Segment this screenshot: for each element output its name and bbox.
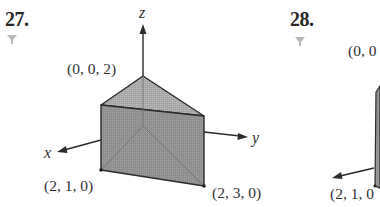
x-axis [57, 140, 101, 153]
point-label-bottom-left-28: (2, 1, 0 [330, 185, 374, 203]
vertex-dot [202, 184, 206, 188]
problem-number-28: 28. [290, 8, 314, 31]
point-label-apex: (0, 0, 2) [67, 60, 116, 78]
funnel-icon [295, 32, 305, 41]
point-label-apex-28: (0, 0 [348, 42, 376, 60]
x-axis-label: x [44, 144, 51, 162]
prism-figure-27 [0, 0, 380, 207]
z-axis-label: z [139, 4, 145, 22]
y-axis [204, 132, 248, 140]
prism-front-face [101, 105, 204, 186]
prism-figure-28-partial [332, 86, 380, 188]
z-axis [140, 24, 147, 76]
vertex-dot [99, 168, 103, 172]
point-label-bottom-right: (2, 3, 0) [212, 184, 261, 202]
y-axis-label: y [252, 129, 259, 147]
point-label-bottom-left: (2, 1, 0) [44, 177, 93, 195]
